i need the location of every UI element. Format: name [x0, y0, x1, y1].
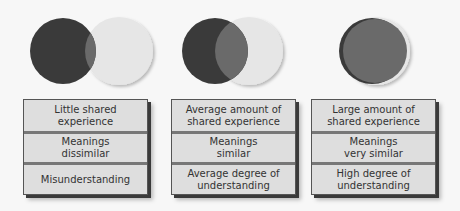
experience-cell: Little shared experience: [24, 100, 147, 131]
meanings-cell: Meanings very similar: [312, 131, 435, 162]
experience-cell: Large amount of shared experience: [312, 100, 435, 131]
overlap-region: [343, 19, 407, 83]
venn-average-overlap: [182, 17, 283, 85]
experience-cell: Average amount of shared experience: [172, 100, 295, 131]
venn-diagrams: [0, 0, 460, 96]
meanings-cell: Meanings similar: [172, 131, 295, 162]
understanding-cell: High degree of understanding: [312, 162, 435, 194]
panel-large-shared: Large amount of shared experience Meanin…: [311, 99, 436, 195]
understanding-cell: Average degree of understanding: [172, 162, 295, 194]
panel-average-shared: Average amount of shared experience Mean…: [171, 99, 296, 195]
meanings-cell: Meanings dissimilar: [24, 131, 147, 162]
understanding-cell: Misunderstanding: [24, 162, 147, 194]
panel-little-shared: Little shared experience Meanings dissim…: [23, 99, 148, 195]
venn-large-overlap: [339, 17, 410, 85]
venn-little-overlap: [30, 17, 153, 85]
